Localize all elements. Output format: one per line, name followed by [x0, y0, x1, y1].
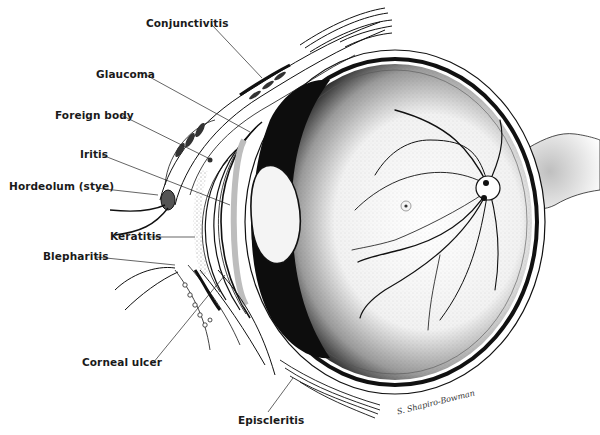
- label-iritis: Iritis: [80, 148, 108, 160]
- stye: [161, 190, 175, 210]
- label-blepharitis: Blepharitis: [43, 250, 109, 262]
- label-hordeolum: Hordeolum (stye): [9, 180, 114, 192]
- upper-lashes: [300, 8, 392, 52]
- label-conjunctivitis: Conjunctivitis: [146, 17, 229, 29]
- label-corneal-ulcer: Corneal ulcer: [82, 356, 162, 368]
- label-glaucoma: Glaucoma: [96, 68, 155, 80]
- optic-disc: [476, 176, 500, 200]
- eye-diagram: [0, 0, 600, 435]
- label-episcleritis: Episcleritis: [238, 414, 304, 426]
- label-foreign-body: Foreign body: [55, 109, 134, 121]
- eyelashes-lower: [115, 267, 178, 310]
- label-keratitis: Keratitis: [110, 230, 162, 242]
